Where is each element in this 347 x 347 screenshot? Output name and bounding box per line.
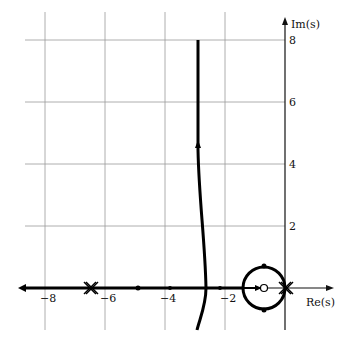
x-tick-label: −8 (40, 292, 56, 305)
y-axis-label: Im(s) (291, 18, 320, 31)
x-axis-label: Re(s) (306, 296, 335, 309)
y-tick-label: 2 (289, 220, 296, 233)
x-tick-label: −6 (100, 292, 116, 305)
x-tick-label: −4 (160, 292, 176, 305)
grid (25, 12, 285, 330)
y-tick-label: 4 (289, 158, 296, 171)
x-tick-label: −2 (220, 292, 236, 305)
y-tick-label: 6 (289, 96, 296, 109)
root-locus-plot: −8 −6 −4 −2 2 4 6 8 Im(s) Re(s) (0, 0, 347, 347)
im-axis-arrow-icon (282, 17, 288, 25)
y-tick-label: 8 (289, 34, 296, 47)
left-arrow-icon (18, 284, 26, 292)
re-axis-arrow-icon (326, 285, 334, 291)
zero-marker-icon (261, 285, 268, 292)
